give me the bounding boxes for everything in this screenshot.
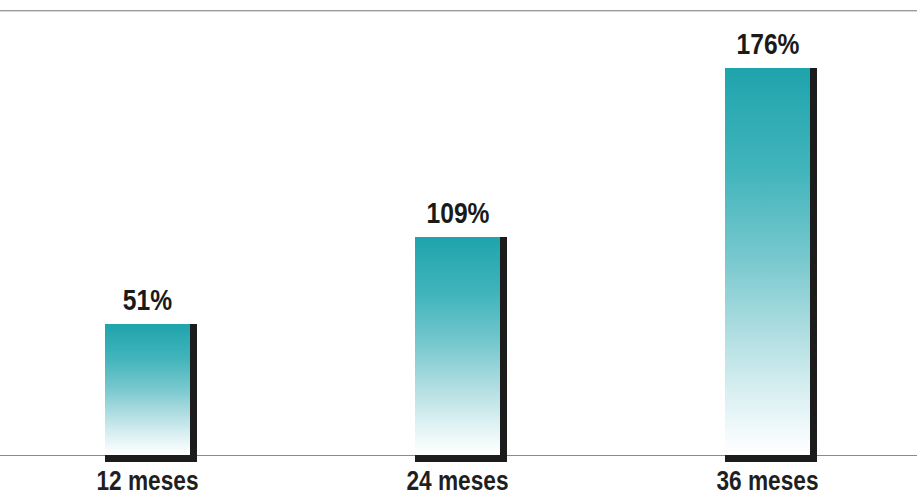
top-frame-rule-soft xyxy=(0,11,917,12)
bar-chart-figure: 51% 109% 176% 12 meses 24 meses 36 meses xyxy=(0,0,917,499)
bar-36-meses[interactable] xyxy=(725,68,810,455)
category-label-12-meses: 12 meses xyxy=(78,466,217,496)
bar-group-1 xyxy=(105,324,190,455)
bar-24-meses[interactable] xyxy=(415,237,500,455)
bar-12-meses[interactable] xyxy=(105,324,190,455)
bar-value-label-2: 109% xyxy=(417,198,499,228)
bar-value-label-1: 51% xyxy=(113,285,183,315)
bar-group-2 xyxy=(415,237,500,455)
bar-base-shadow-1 xyxy=(105,455,197,462)
bar-side-shadow-3 xyxy=(810,68,817,462)
category-label-36-meses: 36 meses xyxy=(698,466,837,496)
bar-base-shadow-3 xyxy=(725,455,817,462)
bar-base-shadow-2 xyxy=(415,455,507,462)
category-label-24-meses: 24 meses xyxy=(388,466,527,496)
clipped-caption-fragment xyxy=(0,0,917,4)
bar-group-3 xyxy=(725,68,810,455)
bar-side-shadow-2 xyxy=(500,237,507,462)
bar-side-shadow-1 xyxy=(190,324,197,462)
bar-value-label-3: 176% xyxy=(727,29,809,59)
